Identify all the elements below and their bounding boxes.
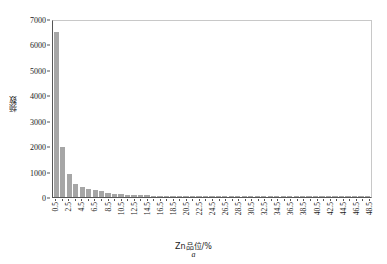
bar [313,196,318,197]
x-tick-mark [362,199,363,201]
x-tick-mark [173,199,174,201]
bar [222,196,227,197]
plot-area [52,20,372,198]
bar [216,196,221,197]
bar [339,196,344,197]
x-tick-mark [264,199,265,201]
x-tick-mark [303,199,304,201]
x-tick-slot: 48.5 [366,199,373,241]
x-tick-mark [245,199,246,201]
y-tick-mark [47,172,50,173]
x-tick-mark [310,199,311,201]
bar [60,147,65,197]
y-tick-mark [47,45,50,46]
x-tick-mark [121,199,122,201]
x-tick-mark [94,199,95,201]
x-tick-mark [251,199,252,201]
x-tick-mark [238,199,239,201]
x-tick-mark [108,199,109,201]
bar [164,196,169,197]
bar [86,189,91,197]
x-tick-mark [88,199,89,201]
x-tick-mark [232,199,233,201]
x-tick-mark [147,199,148,201]
x-tick-mark [290,199,291,201]
x-tick-label: 48.5 [364,202,373,215]
bar [203,196,208,197]
bar [80,187,85,197]
bar [99,191,104,197]
x-tick-mark [127,199,128,201]
x-tick-mark [323,199,324,201]
x-tick-mark [134,199,135,201]
x-tick-mark [68,199,69,201]
bar [358,196,363,197]
x-tick-mark [114,199,115,201]
panel-caption: a [0,250,387,259]
x-tick-mark [317,199,318,201]
x-tick-mark [369,199,370,201]
x-tick-mark [271,199,272,201]
y-tick-label: 5000 [30,66,46,75]
histogram-figure: 频数 70006000500040003000200010000 0.52.54… [0,0,387,264]
x-tick-mark [166,199,167,201]
bar [177,196,182,197]
y-axis-ticks: 70006000500040003000200010000 [0,20,50,198]
bar [67,174,72,197]
bar-series [53,21,371,197]
bar [352,196,357,197]
bar [332,196,337,197]
x-tick-mark [179,199,180,201]
y-tick-mark [47,198,50,199]
bar [190,196,195,197]
bar [261,196,266,197]
bar [138,195,143,197]
y-tick-label: 3000 [30,117,46,126]
bar [294,196,299,197]
x-tick-mark [343,199,344,201]
bar [326,196,331,197]
bar [287,196,292,197]
bar [118,194,123,197]
x-tick-mark [297,199,298,201]
bar [196,196,201,197]
bar [300,196,305,197]
x-tick-mark [101,199,102,201]
bar [105,193,110,197]
bar [54,32,59,197]
y-tick-label: 4000 [30,92,46,101]
bar [274,196,279,197]
x-tick-mark [356,199,357,201]
bar [93,190,98,197]
y-tick-mark [47,70,50,71]
x-tick-mark [62,199,63,201]
bar [268,196,273,197]
y-tick-mark [47,20,50,21]
bar [112,194,117,197]
x-tick-mark [81,199,82,201]
x-tick-mark [212,199,213,201]
x-tick-mark [160,199,161,201]
bar [183,196,188,197]
bar [345,196,350,197]
y-tick-label: 6000 [30,41,46,50]
bar [319,196,324,197]
x-tick-mark [186,199,187,201]
bar [157,196,162,197]
bar [170,196,175,197]
x-tick-mark [205,199,206,201]
x-tick-mark [75,199,76,201]
bar [229,196,234,197]
bar [306,196,311,197]
bar [125,195,130,197]
y-tick-label: 2000 [30,143,46,152]
x-tick-mark [225,199,226,201]
bar [365,196,370,197]
x-tick-mark [284,199,285,201]
bar [144,195,149,197]
bar [151,196,156,197]
x-tick-mark [330,199,331,201]
x-tick-mark [199,199,200,201]
bar [248,196,253,197]
x-tick-mark [277,199,278,201]
